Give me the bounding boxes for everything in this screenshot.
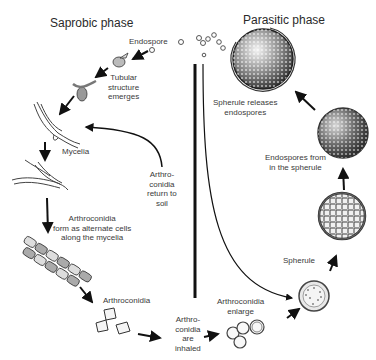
life-cycle-artwork <box>0 0 376 360</box>
endospores-from-spherule-label: Endospores from in the spherule <box>265 153 326 172</box>
mature-spherule-icon <box>318 108 368 158</box>
label-line: along the mycelia <box>53 233 131 243</box>
label-line: endospores <box>213 108 277 118</box>
label-line: Endospores from <box>265 153 326 163</box>
label-line: Arthro- <box>147 170 177 180</box>
label-line: structure <box>108 83 139 93</box>
tubular-structure-icon <box>73 81 96 101</box>
hyphae-icon <box>12 160 68 190</box>
endospore-label: Endospore <box>129 37 168 47</box>
label-line: Arthro- <box>175 315 201 325</box>
saprobic-phase-title: Saprobic phase <box>50 16 133 30</box>
releasing-spherule-icon <box>231 28 295 91</box>
spherule-releases-label: Spherule releases endospores <box>213 98 277 117</box>
arthroconidia-icon <box>96 308 130 334</box>
arthroconidia-enlarge-label: Arthroconidia enlarge <box>217 297 264 316</box>
label-line: return to <box>147 189 177 199</box>
arthroconidia-label: Arthroconidia <box>103 296 150 306</box>
label-line: enlarge <box>217 307 264 317</box>
mycelia-label: Mycelia <box>62 147 89 157</box>
label-line: inhaled <box>175 344 201 354</box>
label-line: Spherule releases <box>213 98 277 108</box>
mycelia-icon <box>34 102 80 148</box>
germinating-endospore-icon <box>113 53 128 67</box>
arthroconidia-chain-icon <box>18 235 93 291</box>
arthroconidia-form-label: Arthroconidia form as alternate cells al… <box>53 214 131 243</box>
label-line: Arthroconidia <box>53 214 131 224</box>
inhaled-label: Arthro- conidia are inhaled <box>175 315 201 353</box>
dividing-spherule-icon <box>319 193 365 239</box>
enlarged-arthroconidia-icon <box>227 320 264 348</box>
spherule-label: Spherule <box>283 256 315 266</box>
label-line: conidia <box>175 325 201 335</box>
parasitic-phase-title: Parasitic phase <box>243 13 325 27</box>
label-line: are <box>175 334 201 344</box>
label-line: Arthroconidia <box>217 297 264 307</box>
tubular-structure-label: Tubular structure emerges <box>108 73 139 102</box>
label-line: Tubular <box>108 73 139 83</box>
label-line: conidia <box>147 180 177 190</box>
young-spherule-icon <box>299 281 329 311</box>
label-line: emerges <box>108 92 139 102</box>
label-line: soil <box>147 199 177 209</box>
return-to-soil-label: Arthro- conidia return to soil <box>147 170 177 208</box>
return-to-soil-arrow <box>86 127 162 167</box>
label-line: form as alternate cells <box>53 224 131 234</box>
label-line: in the spherule <box>265 163 326 173</box>
